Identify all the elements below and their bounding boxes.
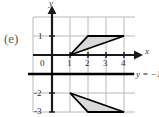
x-axis-arrow — [134, 51, 143, 60]
y-axis-label: y — [48, 0, 53, 8]
reflection-line-label: y = −1 — [135, 69, 159, 79]
original-triangle — [70, 36, 124, 55]
x-axis-label: x — [144, 46, 149, 56]
reflected-triangle — [70, 93, 124, 112]
x-tick-label-1: 1 — [67, 58, 72, 68]
coordinate-plot: x y y = −1 — [0, 0, 159, 117]
figure-container: (e) x y — [0, 0, 159, 117]
x-tick-label-2: 2 — [85, 58, 90, 68]
y-tick-label-neg3: -3 — [34, 106, 42, 116]
y-tick-label-1: 1 — [38, 31, 43, 41]
x-tick-label-3: 3 — [103, 58, 108, 68]
x-tick-label-4: 4 — [121, 58, 126, 68]
y-tick-label-neg2: -2 — [34, 88, 42, 98]
origin-label: 0 — [40, 58, 45, 68]
reflection-line-group: y = −1 — [28, 69, 159, 79]
